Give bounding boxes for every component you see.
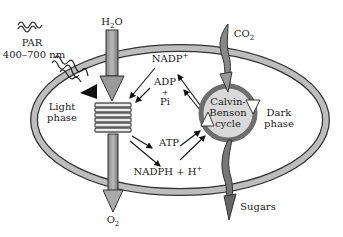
nadph-label: NADPH + H+ (132, 166, 204, 177)
photosynthesis-diagram: PAR 400–700 nm H2O CO2 NADP+ ADP + Pi Li… (0, 0, 343, 237)
o2-label: O2 (102, 214, 124, 225)
light-phase-label-1: Light (45, 101, 79, 112)
calvin-label-1: Calvin- (202, 96, 254, 107)
adp-label: ADP (150, 76, 180, 87)
dark-phase-label-1: Dark (262, 107, 296, 118)
calvin-label-2: Benson (202, 107, 254, 118)
sugars-output-arrow (222, 140, 236, 220)
atp-label: ATP (154, 137, 184, 148)
co2-label: CO2 (230, 28, 258, 39)
pi-label: Pi (150, 96, 180, 107)
h2o-label: H2O (98, 16, 126, 27)
calvin-label-3: cycle (202, 118, 254, 129)
thylakoid-stack (95, 103, 131, 132)
sugars-label: Sugars (238, 201, 278, 212)
nadp-label: NADP+ (148, 53, 192, 64)
par-range-label: 400–700 nm (0, 49, 70, 60)
dark-phase-label-2: phase (262, 118, 296, 129)
oxygen-output-arrow (103, 134, 123, 212)
water-input-arrow (100, 30, 124, 101)
light-phase-label-2: phase (45, 112, 79, 123)
par-label: PAR (12, 37, 52, 48)
light-absorption-triangle (80, 84, 97, 99)
